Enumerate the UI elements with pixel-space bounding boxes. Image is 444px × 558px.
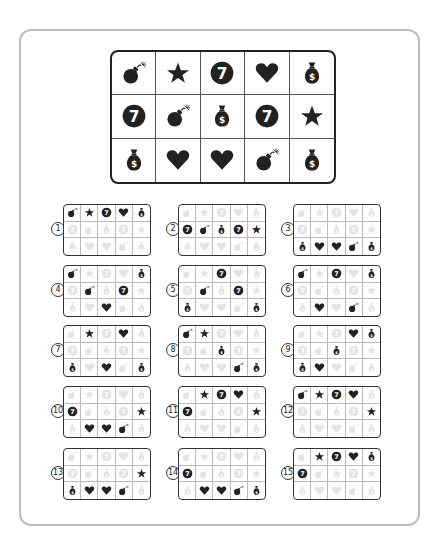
money-bag-icon: $	[251, 485, 262, 496]
money-bag-icon: $	[136, 207, 147, 218]
money-bag-icon: $	[136, 362, 147, 373]
money-bag-icon: $	[136, 451, 147, 462]
option-cell-r0-c0	[179, 205, 196, 222]
option-3[interactable]: 37$7$7$$	[281, 202, 391, 260]
star-icon	[136, 345, 147, 356]
bomb-icon	[67, 328, 78, 339]
bomb-icon	[314, 468, 325, 479]
money-bag-icon: $	[251, 389, 262, 400]
option-cell-r1-c4	[248, 222, 265, 239]
option-cell-r0-c4: $	[363, 266, 380, 283]
star-icon	[251, 406, 262, 417]
svg-text:$: $	[335, 290, 338, 295]
option-cell-r0-c4: $	[133, 205, 150, 222]
option-15[interactable]: 157$7$7$$	[281, 446, 391, 504]
option-cell-r2-c3	[346, 359, 363, 376]
bomb-icon	[348, 485, 359, 496]
seven-coin-icon: 7	[67, 468, 78, 479]
svg-text:$: $	[255, 490, 258, 495]
svg-text:7: 7	[219, 391, 224, 399]
svg-text:7: 7	[121, 226, 126, 234]
option-8[interactable]: 87$7$7$$	[166, 323, 276, 381]
svg-text:$: $	[220, 350, 223, 355]
option-cell-r0-c4: $	[133, 387, 150, 404]
option-cell-r0-c0	[64, 387, 81, 404]
heart-icon	[101, 485, 112, 496]
option-cell-r1-c2: $	[98, 466, 115, 483]
main-cell-r1-c4	[290, 95, 334, 138]
svg-text:7: 7	[300, 226, 305, 234]
option-cell-r0-c1	[311, 326, 328, 343]
option-6[interactable]: 67$7$7$$	[281, 263, 391, 321]
svg-text:7: 7	[351, 287, 356, 295]
option-cell-r2-c2	[328, 420, 345, 437]
option-10[interactable]: 107$7$7$$	[51, 384, 161, 442]
svg-text:$: $	[71, 307, 74, 312]
seven-coin-icon: 7	[182, 345, 193, 356]
option-cell-r1-c0: 7	[294, 404, 311, 421]
svg-text:$: $	[105, 350, 108, 355]
money-bag-icon: $	[67, 362, 78, 373]
option-7[interactable]: 77$7$7$$	[51, 323, 161, 381]
option-1[interactable]: 17$7$7$$	[51, 202, 161, 260]
svg-text:$: $	[370, 367, 373, 372]
option-cell-r1-c4	[133, 466, 150, 483]
heart-icon	[348, 389, 359, 400]
svg-text:$: $	[186, 367, 189, 372]
option-cell-r2-c3	[231, 299, 248, 316]
money-bag-icon: $	[297, 302, 308, 313]
option-cell-r0-c0	[64, 449, 81, 466]
seven-coin-icon: 7	[233, 345, 244, 356]
svg-text:7: 7	[236, 408, 241, 416]
svg-text:$: $	[335, 350, 338, 355]
star-icon	[84, 389, 95, 400]
money-bag-icon: $	[297, 241, 308, 252]
option-cell-r1-c1	[196, 283, 213, 300]
bomb-icon	[233, 241, 244, 252]
svg-text:$: $	[301, 490, 304, 495]
heart-icon	[199, 423, 210, 434]
option-4[interactable]: 47$7$7$$	[51, 263, 161, 321]
option-cell-r1-c0: 7	[294, 222, 311, 239]
svg-text:$: $	[255, 456, 258, 461]
svg-text:$: $	[71, 490, 74, 495]
option-cell-r1-c0: 7	[179, 222, 196, 239]
option-5[interactable]: 57$7$7$$	[166, 263, 276, 321]
option-13[interactable]: 137$7$7$$	[51, 446, 161, 504]
money-bag-icon: $	[136, 328, 147, 339]
option-cell-r1-c3: 7	[231, 466, 248, 483]
option-cell-r0-c1	[81, 205, 98, 222]
star-icon	[314, 207, 325, 218]
option-cell-r1-c2: $	[328, 466, 345, 483]
svg-text:7: 7	[300, 470, 305, 478]
money-bag-icon: $	[366, 268, 377, 279]
svg-text:7: 7	[351, 470, 356, 478]
option-2[interactable]: 27$7$7$$	[166, 202, 276, 260]
bomb-icon	[118, 423, 129, 434]
option-cell-r2-c1	[196, 420, 213, 437]
heart-icon	[209, 147, 235, 173]
option-12[interactable]: 127$7$7$$	[281, 384, 391, 442]
seven-coin-icon: 7	[216, 207, 227, 218]
option-14[interactable]: 147$7$7$$	[166, 446, 276, 504]
option-cell-r0-c0	[294, 449, 311, 466]
svg-text:7: 7	[334, 453, 339, 461]
svg-text:$: $	[186, 490, 189, 495]
bomb-icon	[297, 328, 308, 339]
star-icon	[136, 468, 147, 479]
seven-coin-icon: 7	[67, 285, 78, 296]
option-11[interactable]: 117$7$7$$	[166, 384, 276, 442]
option-9[interactable]: 97$7$7$$	[281, 323, 391, 381]
svg-text:$: $	[220, 473, 223, 478]
option-cell-r1-c0: 7	[179, 283, 196, 300]
money-bag-icon: $	[251, 268, 262, 279]
money-bag-icon: $	[251, 302, 262, 313]
option-cell-r1-c1	[196, 466, 213, 483]
star-icon	[199, 268, 210, 279]
option-grid: 7$7$7$$	[178, 204, 266, 256]
option-cell-r0-c3	[231, 266, 248, 283]
svg-text:7: 7	[185, 347, 190, 355]
option-cell-r1-c1	[196, 222, 213, 239]
svg-text:$: $	[255, 307, 258, 312]
option-cell-r0-c0	[179, 266, 196, 283]
